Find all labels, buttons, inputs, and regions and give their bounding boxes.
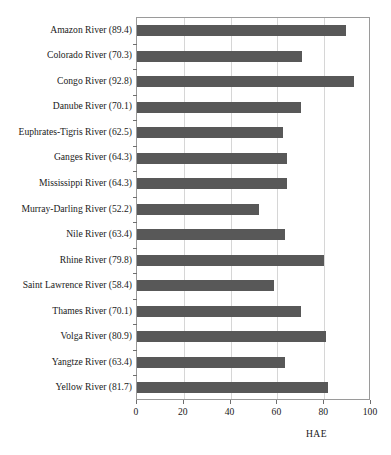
value-tick-100 <box>370 400 371 404</box>
value-tick-20 <box>183 400 184 404</box>
bar <box>137 25 346 36</box>
bar <box>137 102 301 113</box>
bar <box>137 306 301 317</box>
value-tick-60 <box>276 400 277 404</box>
bar-track <box>137 44 369 70</box>
value-tick-40 <box>230 400 231 404</box>
bar <box>137 178 287 189</box>
bar <box>137 204 259 215</box>
bar <box>137 51 302 62</box>
category-label: Saint Lawrence River (58.4) <box>4 279 136 290</box>
category-label: Mississippi River (64.3) <box>4 177 136 188</box>
value-axis-title: HAE <box>306 428 327 439</box>
bar-track <box>137 69 369 95</box>
bar-track <box>137 222 369 248</box>
bar-track <box>137 273 369 299</box>
value-tick-0 <box>136 400 137 404</box>
bar-chart: Amazon River (89.4)Colorado River (70.3)… <box>0 0 391 455</box>
bar <box>137 382 328 393</box>
bar <box>137 229 285 240</box>
category-label: Yellow River (81.7) <box>4 381 136 392</box>
bar-track <box>137 375 369 401</box>
category-label: Thames River (70.1) <box>4 305 136 316</box>
category-label: Colorado River (70.3) <box>4 49 136 60</box>
value-tick-label: 60 <box>272 406 282 417</box>
category-label: Ganges River (64.3) <box>4 151 136 162</box>
category-axis-labels: Amazon River (89.4)Colorado River (70.3)… <box>0 17 136 400</box>
bar-track <box>137 299 369 325</box>
bar-track <box>137 324 369 350</box>
bar-track <box>137 18 369 44</box>
value-tick-label: 80 <box>318 406 328 417</box>
bar <box>137 153 287 164</box>
bar <box>137 331 326 342</box>
bar-track <box>137 120 369 146</box>
bar-track <box>137 248 369 274</box>
bar-track <box>137 171 369 197</box>
value-tick-80 <box>323 400 324 404</box>
value-axis: 020406080100 <box>136 400 370 420</box>
value-tick-label: 40 <box>225 406 235 417</box>
bar-track <box>137 350 369 376</box>
category-label: Volga River (80.9) <box>4 330 136 341</box>
value-tick-label: 0 <box>134 406 139 417</box>
category-label: Congo River (92.8) <box>4 75 136 86</box>
category-label: Danube River (70.1) <box>4 100 136 111</box>
value-tick-label: 100 <box>363 406 377 417</box>
bar-track <box>137 146 369 172</box>
category-label: Euphrates-Tigris River (62.5) <box>4 126 136 137</box>
bar-track <box>137 95 369 121</box>
bar <box>137 357 285 368</box>
category-label: Amazon River (89.4) <box>4 24 136 35</box>
category-label: Nile River (63.4) <box>4 228 136 239</box>
bar-track <box>137 197 369 223</box>
bar <box>137 255 324 266</box>
category-label: Murray-Darling River (52.2) <box>4 203 136 214</box>
bar <box>137 280 274 291</box>
category-label: Yangtze River (63.4) <box>4 356 136 367</box>
plot-area <box>136 17 370 400</box>
category-label: Rhine River (79.8) <box>4 254 136 265</box>
bar <box>137 76 354 87</box>
bar <box>137 127 283 138</box>
value-tick-label: 20 <box>178 406 188 417</box>
